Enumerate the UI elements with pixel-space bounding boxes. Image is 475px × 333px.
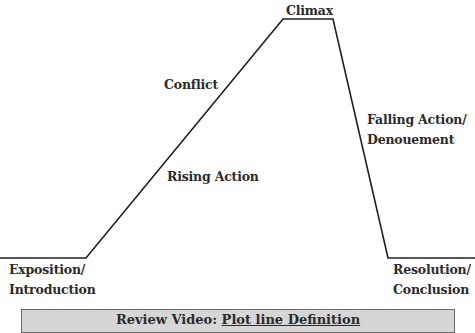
review-video-banner: Review Video: Plot line Definition	[21, 309, 455, 333]
falling-action-line2: Denouement	[367, 130, 467, 150]
resolution-line1: Resolution/	[393, 260, 471, 280]
falling-action-label: Falling Action/ Denouement	[367, 110, 467, 150]
falling-action-line1: Falling Action/	[367, 110, 467, 130]
resolution-line2: Conclusion	[393, 280, 471, 300]
banner-prefix: Review Video:	[116, 312, 222, 327]
exposition-label: Exposition/ Introduction	[9, 260, 96, 300]
exposition-line2: Introduction	[9, 280, 96, 300]
conflict-label: Conflict	[164, 75, 218, 95]
rising-action-label: Rising Action	[167, 167, 259, 187]
plot-line-definition-link[interactable]: Plot line Definition	[222, 312, 361, 327]
resolution-label: Resolution/ Conclusion	[393, 260, 471, 300]
exposition-line1: Exposition/	[9, 260, 96, 280]
climax-label: Climax	[286, 1, 333, 21]
